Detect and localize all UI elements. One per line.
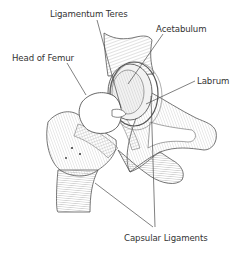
label-labrum: Labrum	[197, 76, 229, 86]
label-acetabulum: Acetabulum	[156, 24, 206, 34]
label-ligamentum-teres: Ligamentum Teres	[50, 9, 128, 19]
leader-labrum	[146, 81, 195, 104]
label-capsular-ligaments: Capsular Ligaments	[124, 233, 208, 243]
hip-joint-diagram: Ligamentum Teres Acetabulum Head of Femu…	[0, 0, 242, 258]
hip-illustration	[0, 0, 242, 258]
leader-capsular-1	[95, 183, 153, 227]
leader-head-of-femur	[67, 63, 86, 95]
label-head-of-femur: Head of Femur	[12, 53, 74, 63]
